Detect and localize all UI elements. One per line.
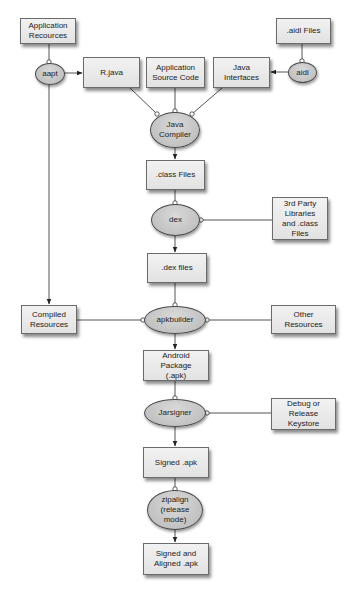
edge-interfaces-compiler xyxy=(192,88,222,114)
node-compiled-resources: Compiled Resources xyxy=(21,305,77,334)
tool-aidl: aidl xyxy=(288,62,317,83)
node-signed-aligned-apk: Signed and Aligned .apk xyxy=(143,543,209,575)
node-label: dex xyxy=(169,215,182,225)
tool-jarsigner: Jarsigner xyxy=(144,399,206,427)
node-label: Jarsigner xyxy=(159,408,192,418)
node-label: Signed .apk xyxy=(155,458,197,468)
tool-java-compiler: Java Compiler xyxy=(150,112,200,148)
edge-rjava-compiler xyxy=(130,88,157,114)
tool-zipalign: zipalign (release mode) xyxy=(147,490,203,530)
node-keystore: Debug or Release Keystore xyxy=(271,398,336,430)
node-label: Application Recources xyxy=(28,21,67,41)
tool-apkbuilder: apkbuilder xyxy=(144,306,206,334)
node-dex-files: .dex files xyxy=(147,253,207,283)
node-label: Android Package (.apk) xyxy=(146,351,206,381)
node-android-package: Android Package (.apk) xyxy=(143,350,209,381)
node-label: R.java xyxy=(100,68,123,78)
node-label: .dex files xyxy=(161,263,193,273)
node-label: 3rd Party Libraries and .class Files xyxy=(282,199,318,239)
node-application-resources: Application Recources xyxy=(20,18,76,44)
node-label: Compiled Resources xyxy=(30,310,68,330)
node-java-interfaces: Java Interfaces xyxy=(213,57,270,88)
node-class-files: .class Files xyxy=(146,160,205,190)
node-label: aapt xyxy=(42,69,58,79)
node-label: Debug or Release Keystore xyxy=(287,399,320,429)
node-label: Java Compiler xyxy=(159,120,191,140)
node-signed-apk: Signed .apk xyxy=(143,447,209,478)
node-other-resources: Other Resources xyxy=(271,305,336,334)
node-aidl-files: .aidl Files xyxy=(276,18,331,44)
node-label: zipalign (release mode) xyxy=(161,495,190,525)
tool-aapt: aapt xyxy=(35,63,65,85)
android-build-diagram: Application Recources .aidl Files R.java… xyxy=(0,0,357,591)
node-third-party-libraries: 3rd Party Libraries and .class Files xyxy=(272,197,328,240)
node-application-source-code: Application Source Code xyxy=(146,57,205,88)
tool-dex: dex xyxy=(151,204,200,236)
node-r-java: R.java xyxy=(83,57,140,88)
node-label: .aidl Files xyxy=(287,26,321,36)
node-label: Java Interfaces xyxy=(224,63,259,83)
node-label: Signed and Aligned .apk xyxy=(154,549,198,569)
node-label: .class Files xyxy=(156,170,196,180)
node-label: Other Resources xyxy=(274,310,333,330)
node-label: Application Source Code xyxy=(152,63,199,83)
node-label: apkbuilder xyxy=(157,315,194,325)
node-label: aidl xyxy=(296,68,308,78)
